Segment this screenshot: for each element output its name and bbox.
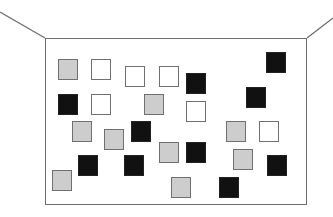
black-square — [246, 87, 266, 108]
black-square — [131, 121, 151, 142]
gray-square — [171, 177, 191, 198]
black-square — [78, 155, 98, 176]
gray-square — [104, 129, 124, 150]
white-square — [91, 94, 111, 115]
gray-square — [72, 121, 92, 142]
black-square — [58, 94, 78, 115]
gray-square — [144, 94, 164, 115]
black-square — [186, 73, 206, 94]
black-square — [266, 52, 286, 73]
gray-square — [52, 170, 72, 191]
white-square — [159, 66, 179, 87]
gray-square — [233, 149, 253, 170]
black-square — [186, 142, 206, 163]
room-diagram — [0, 0, 333, 217]
gray-square — [226, 121, 246, 142]
black-square — [267, 155, 287, 176]
white-square — [91, 59, 111, 80]
left-ceiling-line — [0, 12, 45, 38]
right-ceiling-line — [307, 18, 333, 38]
gray-square — [159, 142, 179, 163]
white-square — [186, 101, 206, 122]
white-square — [125, 66, 145, 87]
gray-square — [58, 59, 78, 80]
white-square — [259, 121, 279, 142]
black-square — [124, 155, 144, 176]
black-square — [219, 177, 239, 198]
